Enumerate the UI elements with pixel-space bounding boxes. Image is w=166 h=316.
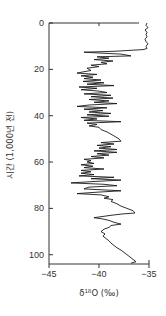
y-tick-label: 0 <box>39 18 44 28</box>
x-axis-title-rest: O (‰) <box>91 288 118 298</box>
y-tick-label: 20 <box>34 64 44 74</box>
y-tick-label: 100 <box>29 250 44 260</box>
x-axis-title: δ18O (‰) <box>79 288 119 298</box>
y-axis-title: 시간 (1,000년 전) <box>5 111 15 179</box>
y-tick-label: 60 <box>34 157 44 167</box>
chart: 020406080100 −45−40−35 시간 (1,000년 전) δ18… <box>0 0 166 316</box>
y-tick-label: 40 <box>34 111 44 121</box>
x-tick-label: −35 <box>141 269 156 279</box>
x-axis-ticks: −45−40−35 <box>41 264 156 279</box>
x-tick-label: −40 <box>91 269 106 279</box>
y-tick-label: 80 <box>34 203 44 213</box>
data-series-line <box>71 23 148 263</box>
x-tick-label: −45 <box>41 269 56 279</box>
